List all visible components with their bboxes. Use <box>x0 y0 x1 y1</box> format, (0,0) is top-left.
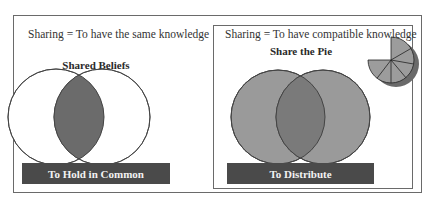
right-panel-caption: Sharing = To have compatible knowledge <box>225 28 417 40</box>
distribute-text: To Distribute <box>269 168 331 180</box>
share-the-pie-venn <box>231 70 370 164</box>
right-panel-heading: Share the Pie <box>265 45 337 57</box>
shared-beliefs-venn <box>8 69 150 165</box>
hold-in-common-text: To Hold in Common <box>48 168 144 180</box>
pie-chart-icon <box>368 37 419 87</box>
distribute-label: To Distribute <box>227 163 374 184</box>
hold-in-common-label: To Hold in Common <box>22 163 170 184</box>
